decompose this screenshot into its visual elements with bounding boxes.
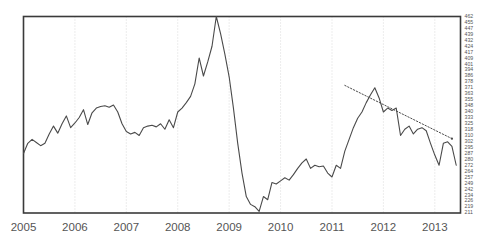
x-tick-2012: 2012 [371,221,397,233]
x-tick-2010: 2010 [268,221,294,233]
x-tick-2011: 2011 [320,221,345,233]
downtrend-endpoint-marker [451,138,453,140]
downtrend-line [345,85,452,138]
x-tick-2013: 2013 [422,221,448,233]
chart-container: 4624554474394324244174094013943863783713… [0,0,495,250]
x-tick-2008: 2008 [165,221,191,233]
x-tick-2005: 2005 [11,221,37,233]
x-tick-2009: 2009 [216,221,242,233]
line-chart: 4624554474394324244174094013943863783713… [0,0,495,250]
gridlines [75,17,435,214]
x-tick-2007: 2007 [114,221,140,233]
x-tick-2006: 2006 [62,221,88,233]
plot-frame [24,17,461,214]
y-axis-tick-labels: 4624554474394324244174094013943863783713… [465,13,474,216]
series-line-index [24,17,457,212]
x-axis-tick-labels: 200520062007200820092010201120122013 [11,221,448,233]
y-tick-211: 211 [465,209,473,215]
